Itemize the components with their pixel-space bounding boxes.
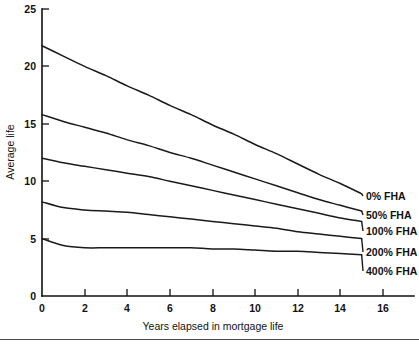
y-tick-label: 15 bbox=[24, 118, 36, 130]
series-label-0-fha: 0% FHA bbox=[366, 190, 406, 202]
x-tick-label: 2 bbox=[82, 302, 88, 314]
chart-figure: 25 20 15 10 5 0 0 2 4 6 8 10 12 14 bbox=[0, 0, 419, 344]
series-curve bbox=[42, 158, 362, 221]
chart-canvas: 25 20 15 10 5 0 0 2 4 6 8 10 12 14 bbox=[0, 0, 419, 344]
y-tick-label: 5 bbox=[30, 233, 36, 245]
footer-divider bbox=[0, 339, 419, 340]
series-leader-line bbox=[362, 239, 363, 252]
series-label-100-fha: 100% FHA bbox=[366, 225, 418, 237]
x-axis-ticks bbox=[85, 289, 383, 296]
series-label-200-fha: 200% FHA bbox=[366, 246, 418, 258]
series-labels: 0% FHA 50% FHA 100% FHA 200% FHA 400% FH… bbox=[366, 190, 418, 277]
series-label-400-fha: 400% FHA bbox=[366, 265, 418, 277]
x-tick-label: 16 bbox=[377, 302, 389, 314]
y-tick-label: 0 bbox=[30, 290, 36, 302]
x-tick-label: 10 bbox=[249, 302, 261, 314]
x-tick-label: 6 bbox=[167, 302, 173, 314]
x-tick-label: 14 bbox=[334, 302, 346, 314]
series-label-50-fha: 50% FHA bbox=[366, 209, 412, 221]
y-tick-label: 25 bbox=[24, 3, 36, 15]
x-axis-tick-labels: 0 2 4 6 8 10 12 14 16 bbox=[39, 302, 389, 314]
x-axis-title: Years elapsed in mortgage life bbox=[143, 320, 284, 332]
x-tick-label: 0 bbox=[39, 302, 45, 314]
x-tick-label: 12 bbox=[292, 302, 304, 314]
x-tick-label: 8 bbox=[210, 302, 216, 314]
series-leader-lines bbox=[362, 194, 363, 271]
y-axis-ticks bbox=[42, 9, 49, 239]
series-leader-line bbox=[362, 211, 363, 215]
series-leader-line bbox=[362, 221, 363, 231]
y-tick-label: 20 bbox=[24, 60, 36, 72]
y-axis-title: Average life bbox=[4, 124, 16, 179]
y-axis-tick-labels: 25 20 15 10 5 0 bbox=[24, 3, 36, 302]
series-curve bbox=[42, 46, 362, 194]
series-leader-line bbox=[362, 255, 363, 271]
series-leader-line bbox=[362, 194, 363, 196]
x-tick-label: 4 bbox=[124, 302, 130, 314]
data-series-layer bbox=[42, 46, 362, 255]
series-curve bbox=[42, 202, 362, 239]
y-tick-label: 10 bbox=[24, 175, 36, 187]
series-curve bbox=[42, 239, 362, 255]
series-curve bbox=[42, 115, 362, 211]
